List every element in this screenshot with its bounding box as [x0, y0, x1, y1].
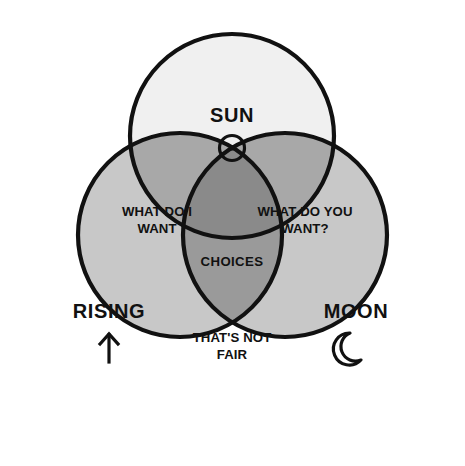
crescent-moon-icon: [333, 333, 361, 365]
set-label-sun: SUN: [210, 104, 254, 126]
region-label-sun-moon-line1: WHAT DO YOU: [257, 204, 352, 219]
set-label-rising: RISING: [73, 300, 146, 322]
region-label-all-three: CHOICES: [201, 254, 264, 269]
region-label-rising-moon-line1: THAT'S NOT: [193, 330, 272, 345]
venn-svg-canvas: SUN RISING MOON WHAT DO I WANT WHAT DO Y…: [0, 0, 465, 466]
set-label-moon: MOON: [324, 300, 389, 322]
region-label-sun-rising-line1: WHAT DO I: [122, 204, 192, 219]
region-label-sun-rising-line2: WANT: [137, 221, 176, 236]
up-arrow-icon: [100, 334, 118, 362]
venn-diagram: SUN RISING MOON WHAT DO I WANT WHAT DO Y…: [0, 0, 465, 466]
region-label-rising-moon-line2: FAIR: [217, 347, 248, 362]
region-label-sun-moon-line2: WANT?: [281, 221, 328, 236]
